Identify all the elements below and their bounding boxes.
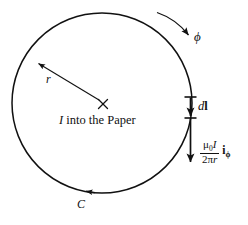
unit-vector-subscript: ϕ	[226, 151, 231, 160]
formula-denominator: 2πr	[200, 154, 219, 166]
phi-label: ϕ	[194, 30, 201, 43]
unit-vector: iϕ	[222, 145, 230, 159]
current-caption: I into the Paper	[59, 114, 136, 127]
dl-vector-symbol: l	[204, 99, 207, 113]
radius-label: r	[46, 73, 51, 85]
field-formula: μ0I 2πr iϕ	[200, 139, 231, 166]
contour-label: C	[77, 198, 85, 210]
dl-segment-group	[185, 97, 197, 118]
radius-symbol: r	[213, 153, 217, 165]
phi-curved-arrow-icon	[157, 13, 189, 36]
dl-label: dl	[198, 100, 208, 113]
formula-current-symbol: I	[213, 138, 217, 150]
figure-root: r ϕ C I into the Paper dl μ0I 2πr iϕ	[0, 0, 248, 225]
center-cross-icon	[99, 100, 108, 109]
formula-numerator: μ0I	[201, 139, 218, 153]
formula-fraction: μ0I 2πr	[200, 139, 219, 166]
current-caption-text: into the Paper	[63, 113, 136, 127]
